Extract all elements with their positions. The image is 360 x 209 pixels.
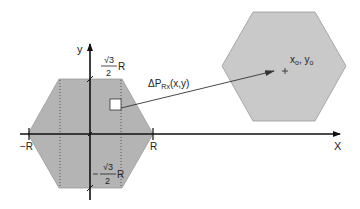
svg-text:R: R (118, 61, 125, 72)
right-hexagon (222, 12, 346, 121)
x-axis-label: X (334, 140, 342, 152)
y-axis-label: y (77, 43, 83, 55)
svg-text:2: 2 (105, 176, 110, 186)
area-element (110, 99, 121, 110)
svg-text:R: R (117, 169, 124, 180)
svg-text:√3: √3 (103, 162, 113, 172)
element-power-label: ΔPRx(x,y) (148, 78, 189, 90)
svg-text:√3: √3 (104, 55, 114, 65)
top-fraction-label: √3 2 R (101, 55, 125, 78)
pos-R-label: R (150, 141, 157, 152)
neg-R-label: −R (20, 141, 33, 152)
svg-text:2: 2 (106, 68, 111, 78)
diagram-canvas: y X −R R √3 2 R √3 2 R ΔPRx(x,y) xo, yo (0, 0, 360, 209)
hexagon-diagram: y X −R R √3 2 R √3 2 R ΔPRx(x,y) xo, yo (0, 0, 360, 209)
